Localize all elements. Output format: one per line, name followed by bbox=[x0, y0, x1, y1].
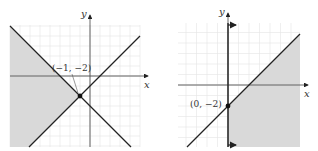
x-axis-label: x bbox=[304, 88, 310, 99]
graph-right: xy(0, −2) bbox=[178, 6, 310, 147]
graph-left: xy(−1, −2) bbox=[10, 8, 150, 147]
shaded-region bbox=[10, 27, 80, 147]
x-axis-label: x bbox=[144, 79, 150, 90]
y-axis-label: y bbox=[218, 6, 225, 17]
intersection-point bbox=[78, 94, 83, 99]
graphs-canvas: xy(−1, −2)xy(0, −2) bbox=[0, 0, 318, 151]
intersection-point bbox=[226, 104, 231, 109]
y-axis-label: y bbox=[80, 8, 87, 19]
point-label: (0, −2) bbox=[190, 99, 222, 109]
point-label: (−1, −2) bbox=[52, 63, 91, 73]
